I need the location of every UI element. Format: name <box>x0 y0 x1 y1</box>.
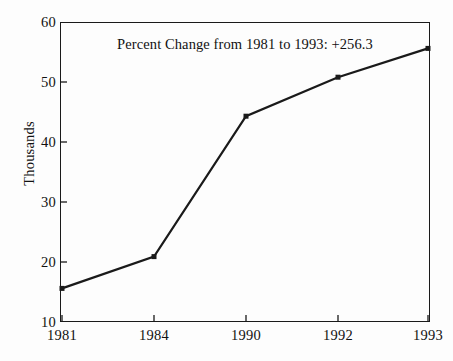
y-tick-label-50: 50 <box>4 75 56 90</box>
y-tick-label-40: 40 <box>4 135 56 150</box>
x-tick-label-1981: 1981 <box>47 327 77 343</box>
data-point-1990 <box>244 114 249 119</box>
x-axis-ticks <box>62 315 428 322</box>
plot-area <box>60 22 430 322</box>
y-axis-ticks <box>60 82 67 262</box>
y-tick-label-60: 60 <box>4 15 56 30</box>
x-axis-tick-labels: 1981 1984 1990 1992 1993 <box>60 327 430 351</box>
data-series-line <box>62 48 428 288</box>
data-point-1992 <box>336 75 341 80</box>
x-tick-label-1992: 1992 <box>323 327 353 343</box>
data-point-markers <box>60 46 431 291</box>
y-tick-label-20: 20 <box>4 255 56 270</box>
y-tick-label-30: 30 <box>4 195 56 210</box>
x-tick-label-1993: 1993 <box>413 327 443 343</box>
x-tick-label-1984: 1984 <box>139 327 169 343</box>
y-axis-tick-labels: 60 50 40 30 20 10 <box>0 0 56 361</box>
data-point-1984 <box>152 254 157 259</box>
data-point-1981 <box>60 286 65 291</box>
chart-page: Percent Change from 1981 to 1993: +256.3… <box>0 0 453 361</box>
x-tick-label-1990: 1990 <box>231 327 261 343</box>
data-point-1993 <box>426 46 431 51</box>
